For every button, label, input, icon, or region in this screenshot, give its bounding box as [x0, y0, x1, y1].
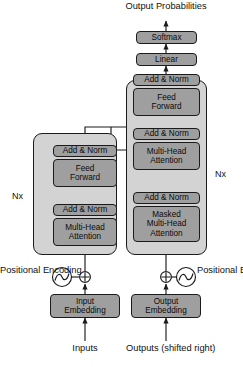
input-positional-encoding-label: Positional Encoding: [0, 265, 50, 275]
encoder-feed-forward-line2: Forward: [70, 173, 100, 182]
decoder-cross-attention-line2: Attention: [150, 156, 182, 165]
decoder-cross-attention-line1: Multi-Head: [147, 147, 187, 156]
input-embedding-block: Input Embedding: [50, 294, 120, 318]
encoder-add-norm-lower-label: Add & Norm: [63, 205, 108, 214]
decoder-masked-attention-line1: Masked: [152, 210, 181, 219]
output-probabilities-line1: Output: [125, 1, 153, 11]
decoder-feed-forward-line2: Forward: [151, 102, 181, 111]
linear-block: Linear: [136, 53, 197, 66]
decoder-add-norm-bottom: Add & Norm: [133, 192, 200, 204]
decoder-stack-count-label: Nx: [215, 169, 226, 179]
softmax-label: Softmax: [151, 33, 181, 42]
input-positional-encoding-line1: Positional: [0, 265, 40, 275]
output-positional-encoding-label: Positional Encoding: [197, 265, 243, 275]
encoder-self-attention: Multi-Head Attention: [53, 218, 117, 246]
encoder-self-attention-line2: Attention: [69, 232, 101, 241]
input-positional-encoding-line2: Encoding: [43, 265, 82, 275]
encoder-feed-forward: Feed Forward: [53, 159, 117, 187]
encoder-stack-count-label: Nx: [12, 191, 23, 201]
input-embedding-line2: Embedding: [64, 306, 105, 315]
input-embedding-line1: Input: [76, 297, 94, 306]
outputs-source-line1: Outputs: [126, 343, 159, 353]
decoder-feed-forward: Feed Forward: [133, 88, 200, 116]
decoder-masked-attention: Masked Multi-Head Attention: [133, 206, 200, 242]
encoder-self-attention-line1: Multi-Head: [65, 223, 105, 232]
decoder-add-norm-middle: Add & Norm: [133, 128, 200, 140]
output-probabilities-label: Output Probabilities: [124, 1, 208, 11]
decoder-masked-attention-line2: Multi-Head: [147, 219, 187, 228]
output-positional-encoding-line2: Encoding: [240, 265, 243, 275]
output-embedding-line1: Output: [154, 297, 179, 306]
encoder-add-norm-lower: Add & Norm: [53, 204, 117, 216]
encoder-feed-forward-line1: Feed: [76, 164, 95, 173]
output-embedding-block: Output Embedding: [131, 294, 201, 318]
output-embedding-line2: Embedding: [145, 306, 186, 315]
outputs-source-line2: (shifted right): [161, 343, 215, 353]
decoder-add-norm-bottom-label: Add & Norm: [144, 193, 189, 202]
decoder-feed-forward-line1: Feed: [157, 93, 176, 102]
decoder-cross-attention: Multi-Head Attention: [133, 142, 200, 170]
encoder-add-norm-upper-label: Add & Norm: [63, 146, 108, 155]
output-probabilities-line2: Probabilities: [156, 1, 207, 11]
outputs-source-label: Outputs (shifted right): [126, 343, 206, 353]
linear-label: Linear: [155, 55, 178, 64]
encoder-add-norm-upper: Add & Norm: [53, 145, 117, 157]
decoder-add-norm-middle-label: Add & Norm: [144, 129, 189, 138]
inputs-source-label: Inputs: [55, 343, 115, 353]
output-positional-encoding-line1: Positional: [197, 265, 237, 275]
softmax-block: Softmax: [136, 31, 197, 44]
decoder-masked-attention-line3: Attention: [150, 229, 182, 238]
decoder-add-norm-top: Add & Norm: [133, 74, 200, 86]
transformer-architecture-diagram: Softmax Linear Add & Norm Feed Forward A…: [0, 0, 243, 367]
decoder-add-norm-top-label: Add & Norm: [144, 75, 189, 84]
